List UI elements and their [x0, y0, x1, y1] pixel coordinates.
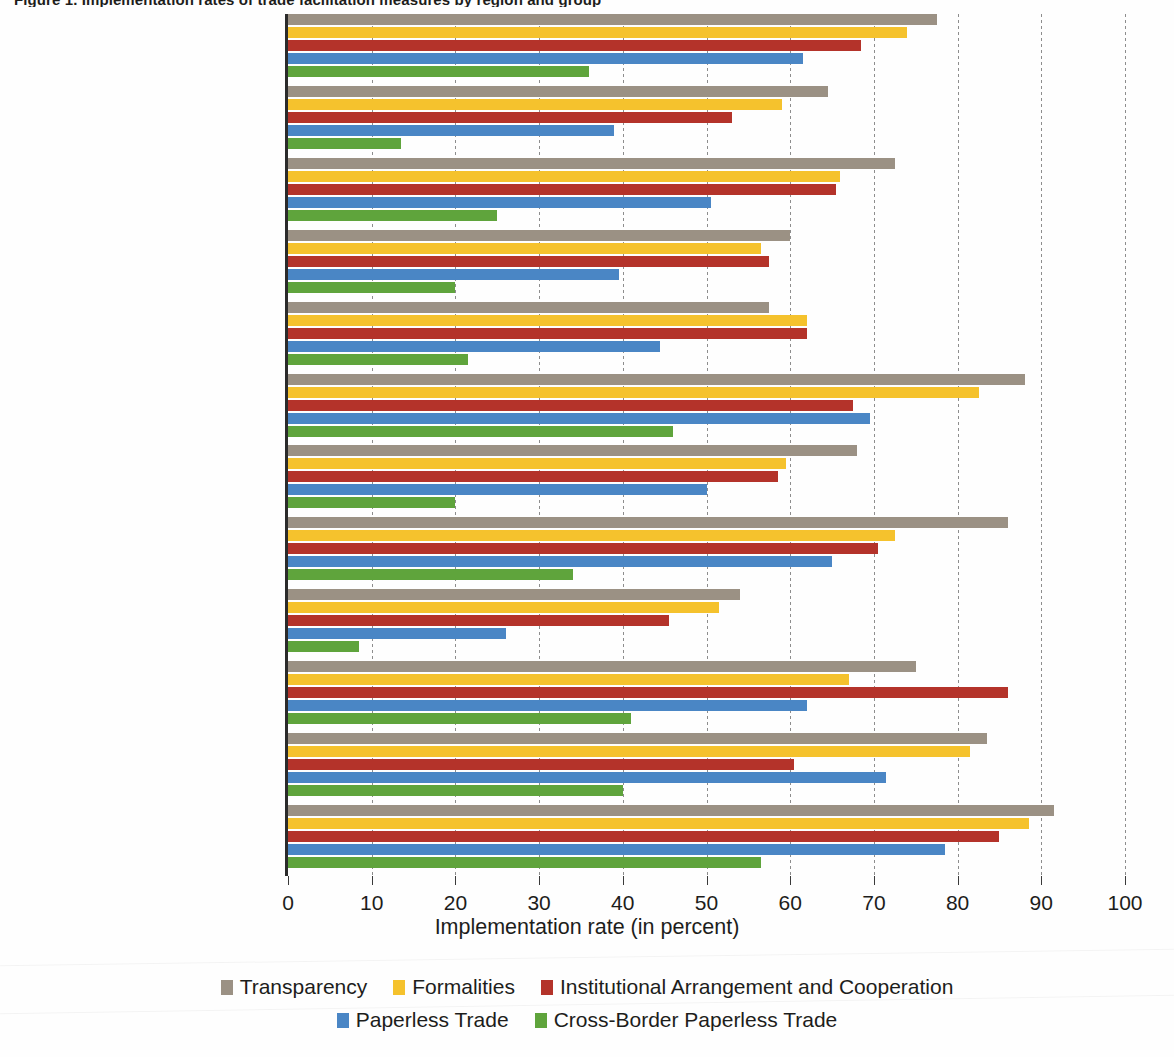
- tick-mark-70: [874, 876, 875, 885]
- bar[interactable]: [288, 426, 673, 437]
- bar[interactable]: [288, 759, 794, 770]
- bar[interactable]: [288, 230, 790, 241]
- bar[interactable]: [288, 171, 840, 182]
- bar[interactable]: [288, 66, 589, 77]
- bar[interactable]: [288, 661, 916, 672]
- bar-group: [288, 733, 1125, 796]
- legend-item[interactable]: Cross-Border Paperless Trade: [535, 1008, 838, 1032]
- bar[interactable]: [288, 445, 857, 456]
- bar-group: [288, 517, 1125, 580]
- tick-mark-90: [1041, 876, 1042, 885]
- bar[interactable]: [288, 125, 614, 136]
- bar[interactable]: [288, 733, 987, 744]
- legend-swatch-icon: [535, 1013, 547, 1028]
- bar[interactable]: [288, 615, 669, 626]
- bar[interactable]: [288, 484, 707, 495]
- bar[interactable]: [288, 641, 359, 652]
- bar[interactable]: [288, 269, 619, 280]
- tick-mark-20: [455, 876, 456, 885]
- bar[interactable]: [288, 602, 719, 613]
- tick-mark-10: [372, 876, 373, 885]
- bar[interactable]: [288, 14, 937, 25]
- bar[interactable]: [288, 99, 782, 110]
- bar[interactable]: [288, 458, 786, 469]
- bar[interactable]: [288, 374, 1025, 385]
- tick-label-70: 70: [844, 891, 904, 915]
- legend-item[interactable]: Institutional Arrangement and Cooperatio…: [541, 975, 953, 999]
- bar[interactable]: [288, 785, 623, 796]
- bar[interactable]: [288, 543, 878, 554]
- tick-label-90: 90: [1011, 891, 1071, 915]
- chart-figure: Figure 1. Implementation rates of trade …: [0, 0, 1174, 1057]
- tick-mark-0: [288, 876, 289, 885]
- bar[interactable]: [288, 328, 807, 339]
- legend-swatch-icon: [393, 980, 405, 995]
- bar[interactable]: [288, 700, 807, 711]
- bar[interactable]: [288, 138, 401, 149]
- bar[interactable]: [288, 530, 895, 541]
- bar[interactable]: [288, 713, 631, 724]
- bar[interactable]: [288, 413, 870, 424]
- legend-swatch-icon: [337, 1013, 349, 1028]
- bar[interactable]: [288, 53, 803, 64]
- tick-label-80: 80: [928, 891, 988, 915]
- legend-item[interactable]: Transparency: [221, 975, 368, 999]
- bar[interactable]: [288, 517, 1008, 528]
- legend-swatch-icon: [221, 980, 233, 995]
- bar-group: [288, 661, 1125, 724]
- bar[interactable]: [288, 387, 979, 398]
- bar-group: [288, 805, 1125, 868]
- bar-group: [288, 374, 1125, 437]
- bar[interactable]: [288, 400, 853, 411]
- tick-label-100: 100: [1095, 891, 1155, 915]
- bar[interactable]: [288, 184, 836, 195]
- tick-label-40: 40: [593, 891, 653, 915]
- bar-group: [288, 445, 1125, 508]
- legend-item[interactable]: Formalities: [393, 975, 515, 999]
- bar-group: [288, 86, 1125, 149]
- x-axis-title: Implementation rate (in percent): [0, 915, 1174, 940]
- bar[interactable]: [288, 831, 999, 842]
- legend-label: Institutional Arrangement and Cooperatio…: [560, 975, 953, 999]
- bar[interactable]: [288, 687, 1008, 698]
- bar[interactable]: [288, 497, 455, 508]
- bar[interactable]: [288, 818, 1029, 829]
- tick-label-20: 20: [425, 891, 485, 915]
- plot-area: 0102030405060708090100: [288, 14, 1125, 876]
- bar[interactable]: [288, 86, 828, 97]
- bar-group: [288, 589, 1125, 652]
- legend-label: Transparency: [240, 975, 368, 999]
- tick-mark-30: [539, 876, 540, 885]
- bar[interactable]: [288, 471, 778, 482]
- chart-legend: TransparencyFormalitiesInstitutional Arr…: [0, 975, 1174, 1041]
- bar[interactable]: [288, 844, 945, 855]
- bar[interactable]: [288, 40, 861, 51]
- bar[interactable]: [288, 628, 506, 639]
- bar[interactable]: [288, 746, 970, 757]
- legend-item[interactable]: Paperless Trade: [337, 1008, 509, 1032]
- bar[interactable]: [288, 210, 497, 221]
- bar[interactable]: [288, 341, 660, 352]
- bar[interactable]: [288, 857, 761, 868]
- bar[interactable]: [288, 197, 711, 208]
- bar[interactable]: [288, 302, 769, 313]
- bar[interactable]: [288, 354, 468, 365]
- legend-row-secondary: Paperless TradeCross-Border Paperless Tr…: [0, 1008, 1174, 1032]
- tick-mark-40: [623, 876, 624, 885]
- bar[interactable]: [288, 158, 895, 169]
- bar[interactable]: [288, 772, 886, 783]
- bar[interactable]: [288, 256, 769, 267]
- bar[interactable]: [288, 243, 761, 254]
- bar[interactable]: [288, 27, 907, 38]
- bar[interactable]: [288, 589, 740, 600]
- bar[interactable]: [288, 674, 849, 685]
- bar[interactable]: [288, 112, 732, 123]
- bar[interactable]: [288, 556, 832, 567]
- bar[interactable]: [288, 315, 807, 326]
- bar-group: [288, 302, 1125, 365]
- chart-title: Figure 1. Implementation rates of trade …: [14, 0, 601, 7]
- bar[interactable]: [288, 569, 573, 580]
- bar[interactable]: [288, 805, 1054, 816]
- bar[interactable]: [288, 282, 455, 293]
- tick-label-10: 10: [342, 891, 402, 915]
